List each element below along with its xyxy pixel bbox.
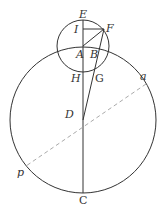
label-A: A: [75, 48, 84, 61]
geometry-diagram: E I F A B H G D a p C: [0, 0, 165, 210]
label-H: H: [70, 72, 81, 85]
label-p: p: [17, 166, 24, 179]
label-a: a: [140, 70, 147, 83]
label-C: C: [79, 194, 87, 207]
label-E: E: [78, 8, 87, 21]
label-I: I: [73, 23, 79, 36]
label-F: F: [105, 22, 114, 35]
dashed-diameter-ap: [26, 84, 146, 166]
label-D: D: [64, 108, 74, 121]
label-B: B: [89, 48, 98, 61]
label-G: G: [95, 72, 104, 85]
